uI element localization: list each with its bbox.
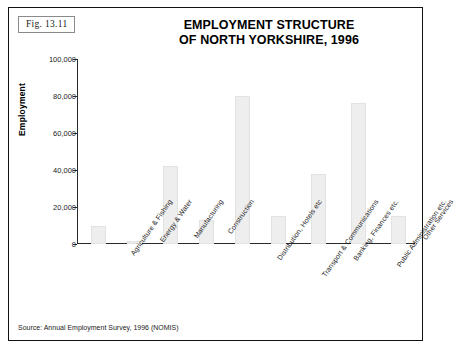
- bar-agriculture-and-fishing: [91, 226, 106, 245]
- figure-frame: Fig. 13.11 EMPLOYMENT STRUCTURE OF NORTH…: [8, 7, 423, 341]
- figure-number-label: Fig. 13.11: [18, 16, 75, 33]
- chart-title: EMPLOYMENT STRUCTURE OF NORTH YORKSHIRE,…: [129, 18, 409, 48]
- bar-other-services: [391, 216, 406, 244]
- y-tick-label: 0: [22, 240, 76, 249]
- y-tick-label: 100,000: [22, 55, 76, 64]
- y-tick-label: 60,000: [22, 129, 76, 138]
- y-tick-label: 80,000: [22, 92, 76, 101]
- chart-title-line-2: OF NORTH YORKSHIRE, 1996: [129, 33, 409, 48]
- chart-title-line-1: EMPLOYMENT STRUCTURE: [184, 18, 355, 32]
- y-tick-label: 40,000: [22, 166, 76, 175]
- y-axis-line: [77, 59, 78, 244]
- bar-transport-and-communications: [271, 216, 286, 244]
- y-tick-label: 20,000: [22, 203, 76, 212]
- source-note: Source: Annual Employment Survey, 1996 (…: [18, 324, 179, 331]
